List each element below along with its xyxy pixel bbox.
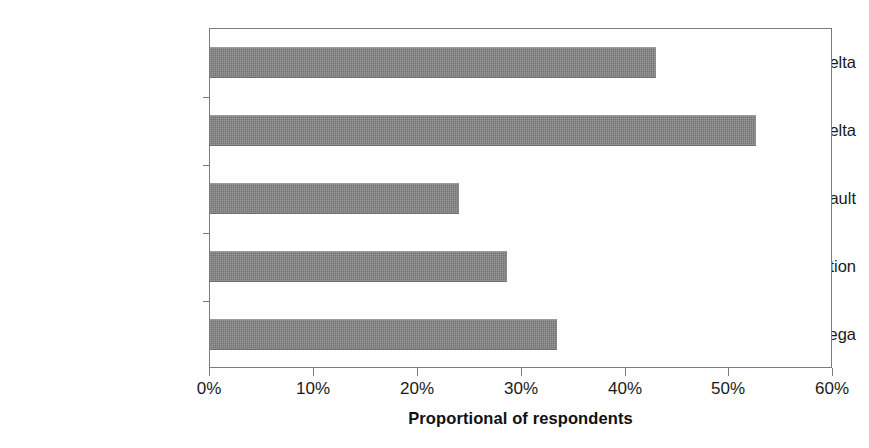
x-axis-tick-label-6: 60%: [792, 379, 869, 399]
x-axis-tick-1: [313, 368, 314, 376]
x-axis-tick-label-2: 20%: [377, 379, 457, 399]
bar-jump-to-default: [210, 183, 459, 214]
x-axis-tick-label-5: 50%: [688, 379, 768, 399]
y-axis-tick-4: [203, 301, 210, 302]
x-axis-tick-3: [521, 368, 522, 376]
plot-area: [209, 28, 832, 368]
bar-vega: [210, 319, 557, 350]
x-axis-tick-label-3: 30%: [481, 379, 561, 399]
x-axis-tick-label-4: 40%: [585, 379, 665, 399]
x-axis-tick-4: [625, 368, 626, 376]
bar-concentration: [210, 251, 507, 282]
y-axis-tick-1: [203, 97, 210, 98]
x-axis-tick-label-0: 0%: [169, 379, 249, 399]
y-axis-tick-3: [203, 233, 210, 234]
bar-credit-spread-delta: [210, 115, 756, 146]
bar-band-1: [210, 97, 831, 165]
x-axis-tick-6: [832, 368, 833, 376]
bar-band-4: [210, 301, 831, 369]
bar-market-risk-delta: [210, 47, 656, 78]
x-axis-tick-5: [728, 368, 729, 376]
x-axis-title: Proportional of respondents: [209, 409, 832, 428]
bar-band-3: [210, 233, 831, 301]
bar-band-0: [210, 29, 831, 97]
bar-chart: Market risk delta Credit spread delta Ju…: [0, 0, 869, 448]
x-axis-tick-label-1: 10%: [273, 379, 353, 399]
y-axis-tick-2: [203, 165, 210, 166]
x-axis-tick-2: [417, 368, 418, 376]
x-axis-tick-0: [209, 368, 210, 376]
bar-band-2: [210, 165, 831, 233]
